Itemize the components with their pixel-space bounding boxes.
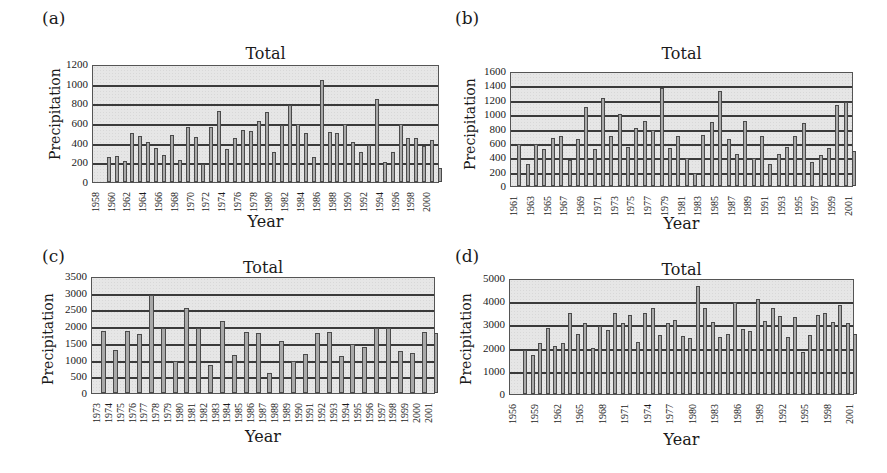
bar xyxy=(406,138,410,182)
x-tick-label: 1974 xyxy=(216,192,227,212)
bar xyxy=(760,136,764,186)
x-axis-label: Year xyxy=(510,214,853,233)
x-tick-label: 1977 xyxy=(664,404,675,424)
x-tick-label: 1996 xyxy=(390,192,401,212)
bar xyxy=(422,146,426,182)
x-tick-label: 1970 xyxy=(185,192,196,212)
y-tick-label: 500 xyxy=(47,370,87,382)
y-tick-label: 200 xyxy=(466,166,506,178)
bar xyxy=(621,323,625,394)
y-tick-label: 200 xyxy=(48,156,88,168)
bar xyxy=(778,316,782,394)
x-tick-label: 1986 xyxy=(732,404,743,424)
bar xyxy=(130,133,134,182)
bar xyxy=(618,114,622,186)
bar xyxy=(777,154,781,186)
y-tick-label: 0 xyxy=(465,388,505,400)
x-tick-label: 1975 xyxy=(625,196,636,216)
x-tick-label: 1995 xyxy=(352,403,363,423)
bar xyxy=(430,140,434,182)
bar xyxy=(304,133,308,182)
x-tick-label: 1982 xyxy=(279,192,290,212)
x-tick-label: 2001 xyxy=(843,196,854,216)
x-tick-label: 1974 xyxy=(103,403,114,423)
bar xyxy=(835,105,839,186)
bar xyxy=(748,331,752,394)
bar xyxy=(696,286,700,394)
bar xyxy=(170,135,174,182)
bar xyxy=(265,112,269,182)
x-tick-label: 2001 xyxy=(844,404,855,424)
bar xyxy=(666,323,670,394)
x-tick-label: 1998 xyxy=(387,403,398,423)
bar xyxy=(823,313,827,394)
y-tick-label: 2000 xyxy=(465,342,505,354)
x-tick-label: 1992 xyxy=(358,192,369,212)
bar xyxy=(343,124,347,182)
x-tick-label: 1979 xyxy=(659,196,670,216)
bar xyxy=(710,122,714,186)
bar xyxy=(658,335,662,394)
bar xyxy=(568,160,572,186)
x-tick-label: 1964 xyxy=(137,192,148,212)
x-tick-label: 1982 xyxy=(198,403,209,423)
x-tick-label: 1959 xyxy=(529,404,540,424)
x-tick-label: 1985 xyxy=(709,196,720,216)
bar xyxy=(327,332,332,394)
bar xyxy=(146,142,150,182)
x-tick-label: 1987 xyxy=(257,403,268,423)
x-tick-label: 1958 xyxy=(90,192,101,212)
x-tick-label: 1983 xyxy=(210,403,221,423)
bar xyxy=(367,145,371,182)
chart-title: Total xyxy=(509,260,854,279)
y-tick-label: 5000 xyxy=(465,272,505,284)
bar xyxy=(681,336,685,394)
gridline xyxy=(92,310,434,312)
y-tick-label: 4000 xyxy=(465,295,505,307)
x-tick-label: 1997 xyxy=(376,403,387,423)
y-tick-label: 0 xyxy=(466,180,506,192)
bar xyxy=(422,332,427,393)
bar xyxy=(288,105,292,182)
y-tick-label: 2500 xyxy=(47,303,87,315)
x-tick-label: 1998 xyxy=(405,192,416,212)
bar xyxy=(660,88,664,186)
bar xyxy=(107,157,111,182)
bar xyxy=(217,111,221,182)
bar xyxy=(542,149,546,186)
x-tick-label: 1985 xyxy=(233,403,244,423)
x-tick-label: 1993 xyxy=(776,196,787,216)
bar xyxy=(115,156,119,182)
bar xyxy=(763,321,767,394)
bar xyxy=(741,329,745,394)
gridline xyxy=(92,327,434,329)
x-tick-label: 1988 xyxy=(269,403,280,423)
x-tick-label: 1961 xyxy=(508,196,519,216)
bar xyxy=(609,136,613,186)
x-tick-label: 1972 xyxy=(200,192,211,212)
panel-label: (c) xyxy=(42,246,65,266)
gridline xyxy=(511,101,852,103)
bar xyxy=(534,144,538,186)
bar xyxy=(668,148,672,186)
gridline xyxy=(510,325,853,327)
bar xyxy=(756,299,760,394)
x-tick-label: 1998 xyxy=(822,404,833,424)
x-tick-label: 1977 xyxy=(138,403,149,423)
x-tick-label: 1991 xyxy=(304,403,315,423)
bar xyxy=(718,337,722,394)
bar xyxy=(414,138,418,182)
bar xyxy=(553,346,557,394)
y-tick-label: 1000 xyxy=(48,78,88,90)
x-tick-label: 1992 xyxy=(316,403,327,423)
y-tick-label: 1000 xyxy=(47,354,87,366)
bar xyxy=(802,123,806,186)
x-tick-label: 1980 xyxy=(174,403,185,423)
bar xyxy=(538,343,542,394)
y-tick-label: 600 xyxy=(48,117,88,129)
bar xyxy=(161,328,166,393)
bar xyxy=(768,164,772,186)
bar xyxy=(523,350,527,394)
chart-title: Total xyxy=(91,258,435,277)
bar xyxy=(838,305,842,394)
